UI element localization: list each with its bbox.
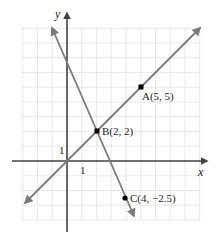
point-a [139, 85, 144, 90]
point-c [122, 195, 127, 200]
y-tick-label: 1 [59, 144, 65, 156]
x-axis-label: x [197, 165, 204, 179]
point-b [95, 129, 100, 134]
point-c-label: C(4, −2.5) [130, 192, 176, 205]
point-a-label: A(5, 5) [142, 90, 174, 103]
graph-svg: A(5, 5) B(2, 2) C(4, −2.5) x y 1 1 [0, 0, 222, 239]
y-axis-label: y [54, 7, 61, 21]
point-b-label: B(2, 2) [102, 125, 134, 138]
line-ab [25, 28, 200, 203]
coordinate-graph: A(5, 5) B(2, 2) C(4, −2.5) x y 1 1 [0, 0, 222, 239]
line-bc [52, 28, 134, 216]
x-tick-label: 1 [80, 164, 86, 176]
